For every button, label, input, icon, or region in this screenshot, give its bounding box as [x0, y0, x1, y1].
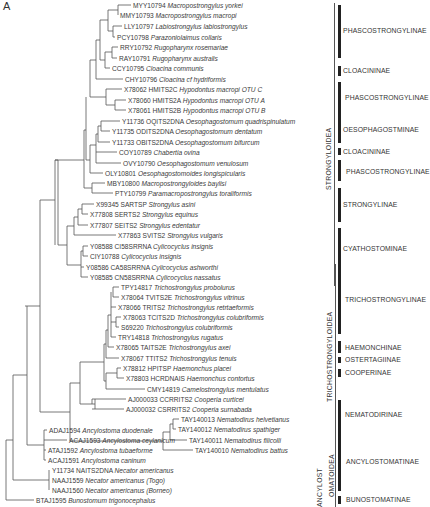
taxon-leaf: X77863 SVITS2 Strongylus vulgaris	[118, 232, 223, 239]
accession-id: X78066 TRITS2	[118, 304, 167, 311]
accession-id: Y08588 CI58SRRNA	[90, 243, 153, 250]
accession-id: CHY10796	[125, 76, 159, 83]
accession-id: TAY140012	[178, 426, 214, 433]
subfamily-bar	[338, 113, 341, 143]
taxon-leaf: X78061 HMITS2B Hypodontus macropi OTU B	[128, 107, 265, 114]
subfamily-bar	[338, 148, 341, 155]
species-name: Macropostrongylus macropi	[156, 12, 237, 19]
subfamily-label: CLOACININAE	[343, 148, 390, 155]
taxon-leaf: NAAJ1560 Necator americanus (Borneo)	[52, 487, 172, 494]
subfamily-bar	[338, 160, 341, 181]
species-name: Strongylus vulgaris	[167, 232, 223, 239]
accession-id: TRY14818	[118, 334, 151, 341]
species-name: Bunostomum trigonocephalus	[68, 497, 155, 504]
subfamily-bar	[338, 357, 341, 363]
species-name: Camelostrongylus mentulatus	[182, 386, 269, 393]
species-name: Trichostrongylus rugatus	[151, 334, 223, 341]
taxon-leaf: X77807 SEITS2 Strongylus edentatur	[90, 222, 200, 229]
species-name: Necator americanus (Borneo)	[85, 487, 172, 494]
superfamily-bracket-line	[335, 264, 336, 445]
subfamily-bar	[338, 426, 341, 491]
accession-id: LLY10797	[124, 23, 155, 30]
taxon-leaf: LLY10797 Labiostrongylus labiostrongylus	[124, 23, 247, 30]
accession-id: MYY10794	[133, 2, 167, 9]
species-name: Parazoniolaimus collaris	[151, 34, 222, 41]
species-name: Nematodirus battus	[231, 447, 288, 454]
taxon-leaf: X78064 TVITS2E Trichostrongylus vitrinus	[121, 294, 245, 301]
accession-id: Y08585 CN58SRRNA	[90, 274, 156, 281]
species-name: Macropostrongylus yorkei	[167, 2, 242, 9]
subfamily-label: STRONGYLINAE	[343, 201, 397, 208]
taxon-leaf: Y08586 CA58SRRNA Cylicocyclus ashworthi	[86, 264, 218, 271]
taxon-leaf: TPY14817 Trichostrongylus probolurus	[121, 284, 235, 291]
accession-id: PTY10799	[115, 190, 148, 197]
taxon-leaf: RRY10792 Rugopharynx rosemariae	[120, 44, 228, 51]
taxon-leaf: ACAJ1593 Ancylostoma ceylanicum	[69, 437, 175, 444]
accession-id: Y11736 OQITS2DNA	[122, 118, 186, 125]
species-name: Trichostrongylus colubriformis	[177, 314, 264, 321]
taxon-leaf: OLY10801 Oesophagostomoides longispicula…	[105, 170, 245, 177]
accession-id: X78812 HPITSP	[123, 365, 173, 372]
subfamily-bar	[338, 5, 341, 58]
subfamily-bar	[338, 369, 341, 377]
species-name: Ancylostoma caninum	[81, 457, 146, 464]
species-name: Cylicocyclus ashworthi	[152, 264, 218, 271]
species-name: Hypodontus macropi OTU A	[183, 97, 265, 104]
taxon-leaf: Y08585 CN58SRRNA Cylicocyclus nassatus	[90, 274, 220, 281]
superfamily-label: OMATOIDEA	[328, 454, 335, 497]
accession-id: MBY10800	[107, 180, 141, 187]
superfamily-bracket-line	[335, 426, 336, 507]
taxon-leaf: Y08588 CI58SRRNA Cylicocyclus insignis	[90, 243, 213, 250]
species-name: Trichostrongylus colubriformis	[146, 324, 233, 331]
subfamily-label: ANCYLOSTOMATINAE	[346, 458, 419, 465]
species-name: Cloacina cf hydriformis	[159, 76, 226, 83]
taxon-leaf: BTAJ1595 Bunostomum trigonocephalus	[36, 497, 155, 504]
subfamily-label: PHASCOSTRONGYLINAE	[343, 27, 427, 34]
taxon-leaf: Y11735 ODITS2DNA Oesophagostomum dentatu…	[112, 128, 262, 135]
taxon-leaf: PCY10798 Parazoniolaimus collaris	[117, 34, 222, 41]
accession-id: X78061 HMITS2B	[128, 107, 183, 114]
species-name: Strongylus equinus	[142, 211, 198, 218]
subfamily-label: COOPERINAE	[345, 369, 391, 376]
species-name: Trichostrongylus tenuis	[169, 355, 236, 362]
taxon-leaf: S69220 Trichostrongylus colubriformis	[121, 324, 233, 331]
accession-id: ACAJ1593	[69, 437, 102, 444]
species-name: Strongylus asini	[149, 201, 196, 208]
species-name: Haemonchus contortus	[187, 375, 255, 382]
taxon-leaf: PTY10799 Paramacropostrongylus toralifor…	[115, 190, 252, 197]
taxon-leaf: CIY10788 Cylicocyclus insignis	[90, 253, 181, 260]
accession-id: S69220	[121, 324, 146, 331]
taxon-leaf: X78812 HPITSP Haemonchus placei	[123, 365, 231, 372]
accession-id: OLY10801	[105, 170, 138, 177]
taxon-leaf: ATAJ1592 Ancylostoma tubaeforme	[48, 447, 153, 454]
species-name: Ancylostoma tubaeforme	[80, 447, 153, 454]
taxon-leaf: TAY140010 Nematodirus battus	[195, 447, 288, 454]
accession-id: AJ000032 CSRRITS2	[126, 406, 192, 413]
subfamily-label: PHASCOSTRONGYLINAE	[346, 168, 430, 175]
accession-id: X78065 TAITS2E	[116, 344, 169, 351]
subfamily-bar	[338, 82, 341, 113]
species-name: Necator americanus	[115, 467, 174, 474]
accession-id: ADAJ1594	[49, 427, 82, 434]
subfamily-label: OESOPHAGOSTMINAE	[343, 126, 419, 133]
subfamily-bar	[338, 188, 341, 222]
taxon-leaf: X78065 TAITS2E Trichostrongylus axei	[116, 344, 230, 351]
accession-id: NAAJ1560	[52, 487, 85, 494]
taxon-leaf: TRY14818 Trichostrongylus rugatus	[118, 334, 223, 341]
taxon-leaf: MBY10800 Macropostrongyloides baylisi	[107, 180, 226, 187]
subfamily-bar	[338, 341, 341, 353]
accession-id: PCY10798	[117, 34, 151, 41]
taxon-leaf: X78060 HMITS2A Hypodontus macropi OTU A	[128, 97, 265, 104]
subfamily-bar	[338, 265, 341, 334]
subfamily-label: PHASCOSTRONGYLINAE	[345, 94, 429, 101]
accession-id: X78064 TVITS2E	[121, 294, 174, 301]
accession-id: TPY14817	[121, 284, 154, 291]
species-name: Strongylus edentatur	[139, 222, 200, 229]
accession-id: X78067 TTITS2	[121, 355, 169, 362]
superfamily-bracket-line	[334, 3, 335, 286]
species-name: Nematodirus filicolli	[224, 437, 281, 444]
accession-id: MMY10793	[120, 12, 156, 19]
species-name: Rugopharynx rosemariae	[154, 44, 228, 51]
accession-id: TAY140011	[189, 437, 224, 444]
subfamily-label: CYATHOSTOMINAE	[343, 245, 407, 252]
